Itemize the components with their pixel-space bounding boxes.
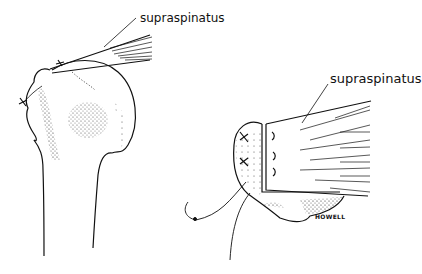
supraspinatus-tendon-right [185,84,371,260]
supraspinatus-label-left: supraspinatus [140,11,225,25]
supraspinatus-label-right: supraspinatus [330,71,422,86]
bone-stipple-right [236,130,344,214]
bone-stipple-left [38,70,127,160]
artist-signature: HOWELL [315,213,345,220]
